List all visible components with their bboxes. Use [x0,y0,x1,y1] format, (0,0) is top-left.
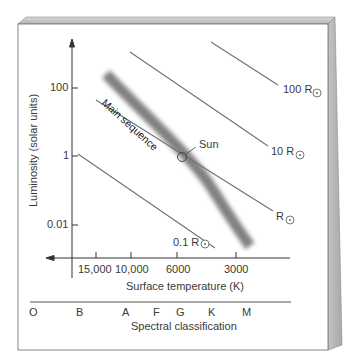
spectral-class-o: O [29,307,38,318]
x-tick-3000: 3000 [224,264,248,275]
x-tick-10000: 10,000 [115,264,149,275]
spectral-class-g: G [176,307,185,318]
y-axis-label: Luminosity (solar units) [28,91,39,211]
radius-label-100r: 100 R [283,84,312,95]
y-tick-100: 100 [50,82,68,93]
spectral-axis-label: Spectral classification [131,321,237,332]
x-tick-15000: 15,000 [78,264,112,275]
radius-label-10r: 10 R [271,146,294,157]
y-tick-0-01: 0.01 [47,219,68,230]
spectral-class-b: B [76,307,83,318]
spectral-class-f: F [153,307,160,318]
sun-label: Sun [199,139,219,150]
diagram-canvas [0,0,349,363]
frame [18,17,342,350]
radius-label-0-1r: 0.1 R [173,237,199,248]
spectral-class-k: K [208,307,215,318]
spectral-class-a: A [122,307,129,318]
x-axis-label: Surface temperature (K) [126,281,244,292]
x-tick-6000: 6000 [166,264,190,275]
radius-label-1r: R [276,211,284,222]
y-tick-1: 1 [63,150,69,161]
spectral-class-m: M [242,307,251,318]
